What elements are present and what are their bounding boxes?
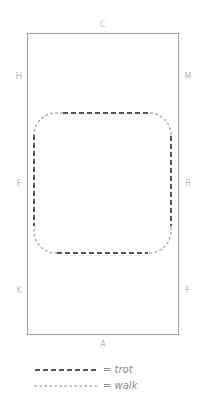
letter-a: A: [100, 339, 106, 349]
letter-f: F: [185, 285, 190, 295]
arena-boundary: [28, 34, 179, 335]
letter-c: C: [100, 19, 106, 29]
arena-svg: [0, 0, 202, 412]
letter-h: H: [16, 71, 23, 81]
legend-trot-label: = trot: [103, 364, 133, 376]
letter-m: M: [184, 71, 192, 81]
letter-e: E: [16, 178, 22, 188]
trot-path: [34, 113, 171, 253]
arena-diagram: C A H E K M B F = trot = walk: [0, 0, 202, 412]
letter-b: B: [185, 178, 191, 188]
legend-walk-label: = walk: [103, 380, 137, 392]
letter-k: K: [16, 285, 22, 295]
walk-path: [34, 113, 171, 253]
